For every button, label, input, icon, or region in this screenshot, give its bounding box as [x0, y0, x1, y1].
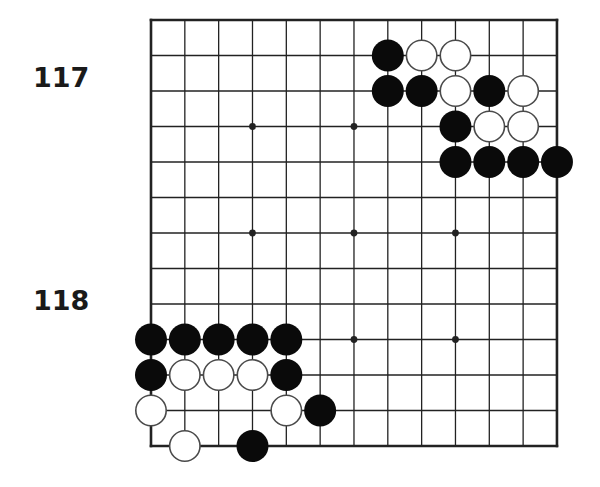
star-point	[351, 230, 358, 237]
star-point	[452, 230, 459, 237]
star-point	[351, 336, 358, 343]
white-stone	[203, 360, 233, 390]
white-stone	[271, 395, 301, 425]
white-stone	[406, 40, 436, 70]
black-stone	[406, 75, 438, 107]
black-stone	[507, 146, 539, 178]
black-stone	[236, 324, 268, 356]
white-stone	[440, 76, 470, 106]
black-stone	[372, 40, 404, 72]
black-stone	[439, 146, 471, 178]
white-stone	[474, 111, 504, 141]
go-board[interactable]	[0, 0, 600, 487]
black-stone	[270, 324, 302, 356]
black-stone	[236, 430, 268, 462]
black-stone	[304, 395, 336, 427]
white-stone	[170, 360, 200, 390]
star-point	[249, 230, 256, 237]
black-stone	[473, 146, 505, 178]
white-stone	[237, 360, 267, 390]
black-stone	[135, 324, 167, 356]
black-stone	[135, 359, 167, 391]
white-stone	[440, 40, 470, 70]
black-stone	[270, 359, 302, 391]
black-stone	[372, 75, 404, 107]
white-stone	[170, 431, 200, 461]
white-stone	[508, 76, 538, 106]
star-point	[351, 123, 358, 130]
white-stone	[508, 111, 538, 141]
black-stone	[203, 324, 235, 356]
star-point	[249, 123, 256, 130]
black-stone	[541, 146, 573, 178]
white-stone	[136, 395, 166, 425]
black-stone	[169, 324, 201, 356]
black-stone	[439, 111, 471, 143]
black-stone	[473, 75, 505, 107]
star-point	[452, 336, 459, 343]
